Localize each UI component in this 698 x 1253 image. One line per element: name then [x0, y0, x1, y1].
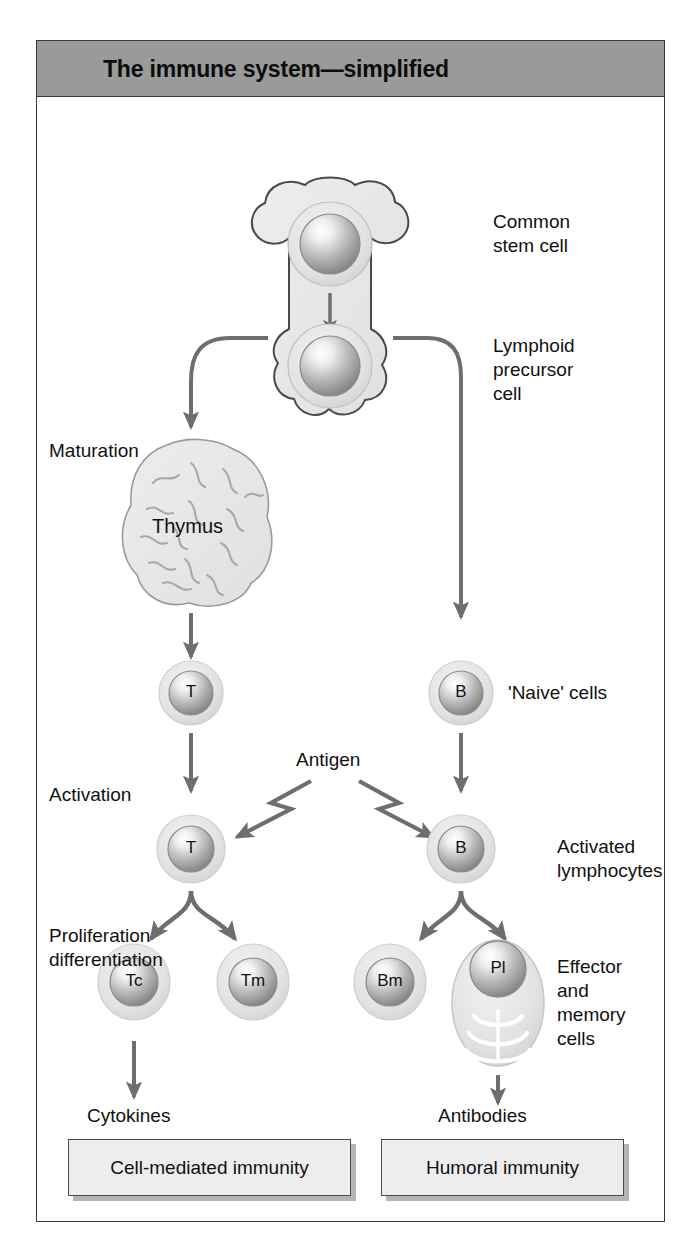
cytokines-label: Cytokines: [87, 1105, 170, 1127]
stage-label-maturation: Maturation: [49, 439, 139, 463]
lymphoid-precursor-cell: [288, 324, 372, 408]
antigen-arrow-to-b-cell: [359, 781, 433, 837]
activated-t-cell: [157, 815, 225, 883]
naive-b-cell: [429, 661, 493, 725]
outcome-label-humoral: Humoral immunity: [426, 1157, 579, 1179]
stage-label-lymphoid-precursor: Lymphoid precursor cell: [493, 334, 575, 406]
memory-b-cell: [354, 944, 426, 1020]
figure-title-bar: The immune system—simplified: [37, 41, 664, 97]
arrow-activated-t-to-tm: [191, 891, 235, 939]
arrow-activated-b-to-bm: [421, 891, 461, 939]
arrow-marrow-to-thymus: [191, 338, 268, 427]
diagram-canvas: T B T B Tc Tm Bm Pl Thymus Maturation Ac…: [37, 97, 664, 1221]
figure-frame: The immune system—simplified: [36, 40, 665, 1222]
plasma-cell: [452, 940, 544, 1066]
stage-label-naive-cells: 'Naive' cells: [508, 681, 607, 705]
outcome-label-cell-mediated: Cell-mediated immunity: [110, 1157, 309, 1179]
stage-label-activated-lymphocytes: Activated lymphocytes: [557, 835, 663, 883]
antibodies-label: Antibodies: [438, 1105, 527, 1127]
outcome-box-cell-mediated-immunity[interactable]: Cell-mediated immunity: [68, 1139, 351, 1196]
diagram-graphics: [37, 97, 664, 1221]
arrow-marrow-to-b-cell: [393, 338, 461, 617]
stage-label-common-stem-cell: Common stem cell: [493, 210, 570, 258]
stage-label-effector-memory-cells: Effector and memory cells: [557, 955, 626, 1051]
thymus-label: Thymus: [152, 514, 223, 538]
naive-t-cell: [159, 661, 223, 725]
antigen-arrow-to-t-cell: [237, 781, 311, 837]
antigen-label: Antigen: [296, 749, 360, 771]
stage-label-activation: Activation: [49, 783, 131, 807]
stem-cell: [288, 202, 372, 286]
activated-b-cell: [427, 815, 495, 883]
arrow-activated-b-to-plasma: [461, 891, 505, 939]
stage-label-proliferation: Proliferation differentiation: [49, 924, 163, 972]
page-title: The immune system—simplified: [103, 56, 449, 83]
memory-t-cell: [217, 944, 289, 1020]
outcome-box-humoral-immunity[interactable]: Humoral immunity: [381, 1139, 624, 1196]
